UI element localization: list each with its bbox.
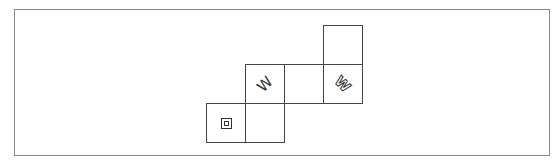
cube-face-outlined-w: W — [323, 64, 363, 104]
inner-square-icon — [224, 121, 229, 126]
nested-square-icon — [221, 118, 232, 129]
cube-face-top — [323, 25, 363, 65]
cube-face-blank-middle — [284, 64, 324, 104]
cube-face-blank-bottom — [245, 103, 285, 143]
cube-face-nested-square — [206, 103, 246, 143]
cube-face-w: W — [245, 64, 285, 104]
outlined-w-icon: W — [333, 74, 354, 95]
letter-w-icon: W — [254, 73, 275, 94]
